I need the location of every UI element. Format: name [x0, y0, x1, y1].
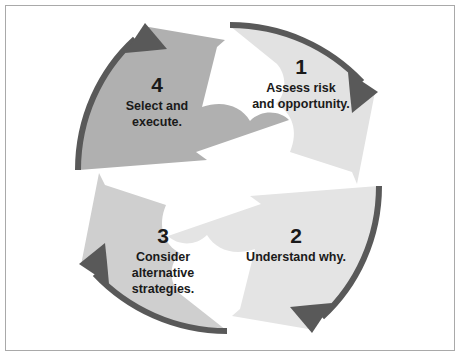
cycle-step-3-line-3: strategies.: [132, 282, 195, 296]
cycle-step-3[interactable]: 3 Consider alternative strategies.: [79, 173, 227, 331]
cycle-step-4-line-2: execute.: [132, 115, 182, 129]
cycle-step-3-line-2: alternative: [132, 266, 195, 280]
cycle-step-3-number: 3: [157, 224, 169, 247]
cycle-step-4-number: 4: [151, 73, 163, 96]
cycle-step-4-line-1: Select and: [126, 99, 189, 113]
cycle-step-1-line-2: and opportunity.: [252, 97, 350, 111]
cycle-step-1-line-1: Assess risk: [266, 81, 336, 95]
cycle-step-2-line-1: Understand why.: [246, 250, 346, 264]
cycle-step-2-number: 2: [290, 224, 302, 247]
cycle-step-1[interactable]: 1 Assess risk and opportunity.: [230, 25, 378, 184]
cycle-diagram: 1 Assess risk and opportunity. 2 Underst…: [0, 0, 460, 356]
diagram-canvas: 1 Assess risk and opportunity. 2 Underst…: [0, 0, 460, 356]
cycle-step-1-number: 1: [295, 55, 307, 78]
cycle-step-3-line-1: Consider: [136, 250, 190, 264]
